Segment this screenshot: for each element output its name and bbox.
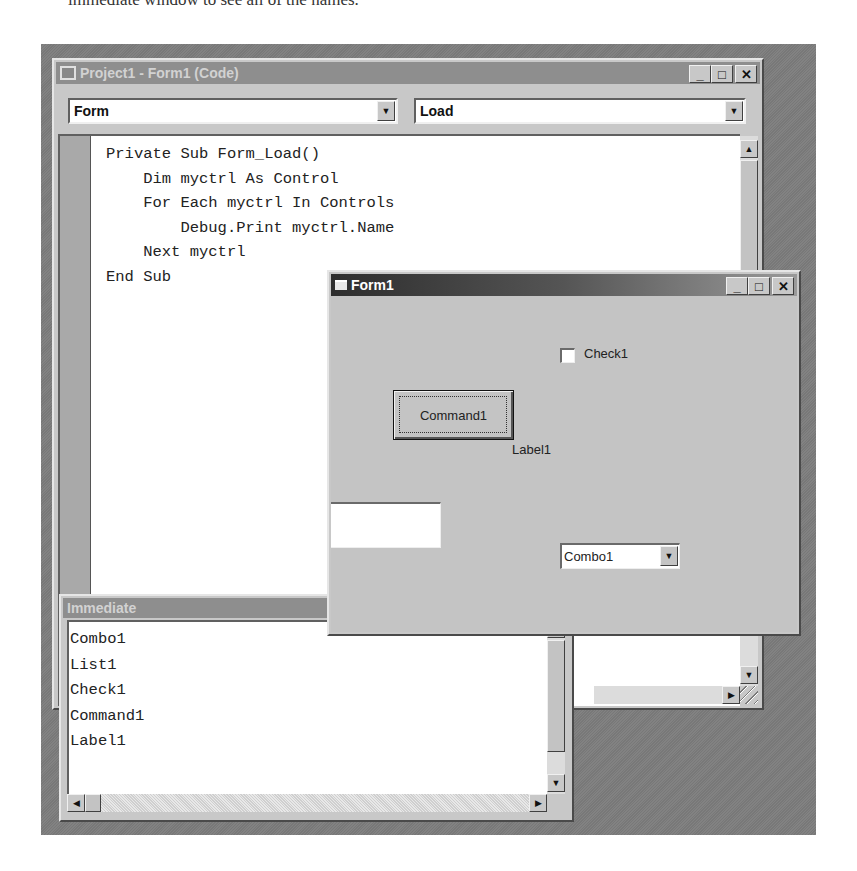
immediate-horizontal-scrollbar[interactable]: ◀ ▶ — [67, 794, 547, 812]
form1-titlebar[interactable]: Form1 _ □ ✕ — [331, 274, 797, 296]
chevron-down-icon[interactable]: ▼ — [377, 101, 395, 121]
code-window-title: Project1 - Form1 (Code) — [80, 65, 239, 81]
form1-title: Form1 — [351, 277, 394, 293]
code-horizontal-scrollbar[interactable]: ▶ — [594, 686, 740, 704]
scroll-down-icon[interactable]: ▼ — [740, 666, 758, 684]
scroll-thumb[interactable] — [85, 794, 101, 812]
code-line: Next myctrl — [106, 243, 246, 261]
label1-text: Label1 — [512, 442, 551, 457]
form-icon — [335, 280, 347, 290]
focus-rectangle — [399, 396, 507, 433]
code-window-icon — [60, 66, 76, 80]
check1-label[interactable]: Check1 — [584, 346, 628, 361]
combo1-combobox[interactable]: Combo1 ▼ — [560, 543, 680, 569]
output-line: Command1 — [70, 704, 144, 730]
code-line: For Each myctrl In Controls — [106, 194, 394, 212]
list1-listbox[interactable] — [331, 502, 441, 548]
immediate-vertical-scrollbar[interactable]: ▲ ▼ — [547, 620, 565, 794]
output-line: Check1 — [70, 678, 144, 704]
scroll-right-icon[interactable]: ▶ — [722, 686, 740, 704]
scroll-left-icon[interactable]: ◀ — [67, 794, 85, 812]
minimize-button[interactable]: _ — [726, 277, 748, 295]
combo1-value: Combo1 — [564, 549, 613, 564]
code-window-titlebar[interactable]: Project1 - Form1 (Code) _ □ ✕ — [56, 62, 760, 84]
code-line: End Sub — [106, 268, 171, 286]
command1-button[interactable]: Command1 — [393, 390, 514, 440]
maximize-button[interactable]: □ — [711, 65, 733, 83]
form1-client-area: Check1 Command1 Label1 Combo1 ▼ — [331, 296, 797, 632]
procedure-combo-value: Load — [420, 103, 453, 119]
minimize-button[interactable]: _ — [689, 65, 711, 83]
scroll-down-icon[interactable]: ▼ — [547, 774, 565, 792]
object-combo[interactable]: Form ▼ — [68, 98, 398, 124]
output-line: Combo1 — [70, 627, 144, 653]
code-line: Private Sub Form_Load() — [106, 145, 320, 163]
code-line: Dim myctrl As Control — [106, 170, 339, 188]
output-line: List1 — [70, 653, 144, 679]
procedure-combo[interactable]: Load ▼ — [414, 98, 746, 124]
object-combo-value: Form — [74, 103, 109, 119]
check1-checkbox[interactable] — [560, 348, 575, 363]
maximize-button[interactable]: □ — [748, 277, 770, 295]
chevron-down-icon[interactable]: ▼ — [660, 546, 678, 566]
form1-window: Form1 _ □ ✕ Check1 Command1 Label1 Combo… — [327, 270, 801, 636]
scroll-right-icon[interactable]: ▶ — [529, 794, 547, 812]
close-button[interactable]: ✕ — [735, 65, 757, 83]
immediate-window-title: Immediate — [67, 600, 136, 616]
chevron-down-icon[interactable]: ▼ — [725, 101, 743, 121]
scroll-up-icon[interactable]: ▲ — [740, 140, 758, 158]
scroll-thumb[interactable] — [547, 640, 565, 752]
caption-text: immediate window to see all of the names… — [68, 0, 857, 8]
code-text: Private Sub Form_Load() Dim myctrl As Co… — [106, 142, 394, 289]
code-line: Debug.Print myctrl.Name — [106, 219, 394, 237]
immediate-output: Combo1 List1 Check1 Command1 Label1 — [70, 627, 144, 755]
output-line: Label1 — [70, 729, 144, 755]
resize-grip-icon[interactable] — [740, 686, 758, 704]
close-button[interactable]: ✕ — [772, 277, 794, 295]
